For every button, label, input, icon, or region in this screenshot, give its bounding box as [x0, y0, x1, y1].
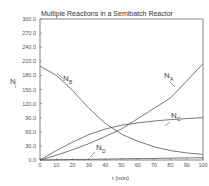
x-tick-label: 40 — [102, 162, 108, 168]
y-tick-label: 120.0 — [22, 101, 36, 107]
svg-text:C: C — [177, 116, 181, 122]
x-tick-label: 20 — [70, 162, 76, 168]
x-tick-label: 70 — [151, 162, 157, 168]
svg-text:i: i — [15, 83, 16, 89]
series-label-n-a: NA — [164, 71, 174, 82]
y-tick-label: 150.0 — [22, 87, 36, 93]
chart-title: Multiple Reactions in a Semibatch Reacto… — [41, 10, 174, 18]
x-tick-label: 100 — [198, 162, 207, 168]
chart: Multiple Reactions in a Semibatch Reacto… — [0, 0, 209, 186]
svg-text:A: A — [170, 76, 174, 82]
x-tick-label: 60 — [135, 162, 141, 168]
x-tick-label: 30 — [86, 162, 92, 168]
y-axis-label: N i — [10, 77, 16, 89]
x-tick-label: 0 — [38, 162, 41, 168]
svg-text:D: D — [102, 148, 106, 154]
x-axis-label: t (min) — [112, 175, 129, 181]
x-tick-label: 80 — [167, 162, 173, 168]
series-label-n-c: NC — [171, 111, 181, 122]
y-tick-label: 210.0 — [22, 58, 36, 64]
y-tick-label: 30.0 — [25, 143, 36, 149]
series-label-n-d: ND — [96, 143, 106, 154]
y-tick-label: 270.0 — [22, 30, 36, 36]
y-tick-label: 180.0 — [22, 72, 36, 78]
x-tick-label: 90 — [184, 162, 190, 168]
series-line-n-c — [40, 118, 203, 160]
y-tick-label: 300.0 — [22, 16, 36, 22]
series-labels: NANBNCND — [57, 71, 181, 157]
x-tick-label: 50 — [118, 162, 124, 168]
x-tick-label: 10 — [53, 162, 59, 168]
y-tick-label: 0.0 — [28, 157, 36, 163]
svg-text:B: B — [69, 79, 73, 85]
y-tick-label: 60.0 — [25, 129, 36, 135]
y-tick-label: 240.0 — [22, 44, 36, 50]
y-axis-ticks: 0.030.060.090.0120.0150.0180.0210.0240.0… — [22, 16, 42, 163]
y-tick-label: 90.0 — [25, 115, 36, 121]
